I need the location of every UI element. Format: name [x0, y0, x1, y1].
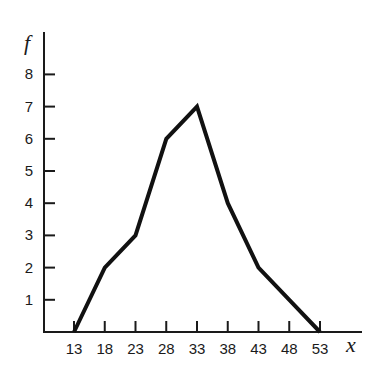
x-tick-label: 48	[281, 340, 298, 357]
x-tick-label: 13	[66, 340, 83, 357]
y-ticks: 12345678	[25, 65, 55, 307]
x-ticks: 131823283338434853	[66, 321, 329, 357]
y-tick-label: 7	[25, 98, 33, 115]
y-tick-label: 5	[25, 162, 33, 179]
frequency-polygon-chart: 12345678 131823283338434853 f x	[0, 0, 386, 365]
x-tick-label: 33	[189, 340, 206, 357]
y-tick-label: 8	[25, 65, 33, 82]
y-axis-label: f	[24, 30, 33, 55]
y-tick-label: 6	[25, 130, 33, 147]
x-tick-label: 53	[312, 340, 329, 357]
frequency-line	[74, 107, 320, 332]
y-tick-label: 3	[25, 226, 33, 243]
x-tick-label: 38	[219, 340, 236, 357]
y-tick-label: 4	[25, 194, 33, 211]
y-tick-label: 2	[25, 259, 33, 276]
x-tick-label: 18	[96, 340, 113, 357]
x-axis-label: x	[345, 332, 356, 357]
x-tick-label: 28	[158, 340, 175, 357]
axes	[43, 32, 362, 333]
y-tick-label: 1	[25, 291, 33, 308]
x-tick-label: 23	[127, 340, 144, 357]
x-tick-label: 43	[250, 340, 267, 357]
